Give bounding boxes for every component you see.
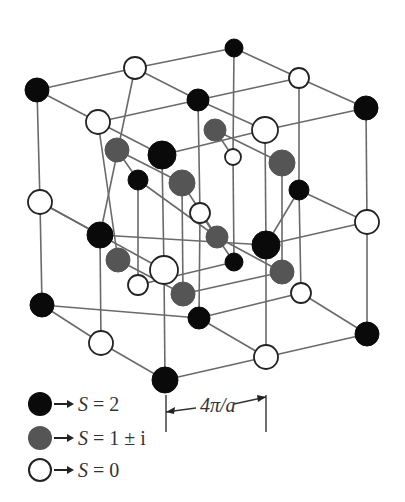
black-lattice-point bbox=[25, 78, 49, 102]
arrow-right-icon bbox=[54, 403, 72, 405]
lattice-edge bbox=[199, 213, 200, 318]
black-lattice-point bbox=[252, 231, 280, 259]
gray-lattice-point bbox=[204, 119, 226, 141]
legend-item-s0: S = 0 bbox=[28, 458, 188, 484]
lattice-edge bbox=[265, 108, 366, 130]
black-lattice-point bbox=[225, 253, 243, 271]
lattice-edge bbox=[100, 235, 101, 343]
legend-label: S = 1 ± i bbox=[78, 426, 146, 450]
lattice-edge bbox=[165, 357, 266, 380]
white-lattice-point bbox=[225, 149, 241, 165]
black-lattice-point bbox=[289, 180, 309, 200]
lattice-edge bbox=[265, 130, 266, 245]
legend-label: S = 0 bbox=[78, 458, 119, 482]
lattice-edge bbox=[164, 270, 165, 380]
gray-lattice-point bbox=[269, 150, 295, 176]
white-lattice-point bbox=[291, 283, 311, 303]
black-lattice-point bbox=[187, 89, 209, 111]
gray-lattice-point bbox=[171, 282, 195, 306]
legend-label: S = 2 bbox=[78, 392, 119, 416]
white-lattice-point bbox=[254, 345, 278, 369]
arrow-right-icon bbox=[54, 437, 72, 439]
lattice-edge bbox=[299, 190, 301, 293]
lattice-edge bbox=[233, 157, 234, 262]
legend-item-s1pmi: S = 1 ± i bbox=[28, 426, 188, 452]
lattice-edge bbox=[366, 108, 367, 222]
white-circle-icon bbox=[28, 458, 52, 482]
black-lattice-point bbox=[188, 307, 210, 329]
black-lattice-point bbox=[355, 322, 379, 346]
dimension-label: 4π/a bbox=[200, 394, 236, 417]
black-lattice-point bbox=[354, 96, 378, 120]
white-lattice-point bbox=[124, 57, 146, 79]
black-lattice-point bbox=[225, 39, 243, 57]
lattice-edge bbox=[37, 90, 40, 202]
arrowhead-icon bbox=[257, 395, 266, 402]
gray-lattice-point bbox=[270, 260, 294, 284]
lattice-edge bbox=[37, 68, 135, 90]
lattice-edge bbox=[199, 293, 301, 318]
white-lattice-point bbox=[150, 256, 178, 284]
white-lattice-point bbox=[89, 331, 113, 355]
black-lattice-point bbox=[87, 222, 113, 248]
white-lattice-point bbox=[86, 110, 110, 134]
lattice-edge bbox=[183, 272, 282, 294]
gray-circle-icon bbox=[28, 426, 52, 450]
lattice-edge bbox=[135, 48, 234, 68]
black-lattice-point bbox=[128, 170, 148, 190]
gray-lattice-point bbox=[169, 170, 195, 196]
lattice-edge bbox=[98, 100, 198, 122]
lattice-edge bbox=[266, 222, 367, 245]
lattice-edge bbox=[42, 305, 199, 318]
lattice-edge bbox=[198, 78, 299, 100]
lattice-edge bbox=[198, 100, 200, 213]
white-lattice-point bbox=[28, 190, 52, 214]
white-lattice-point bbox=[289, 68, 309, 88]
black-lattice-point bbox=[148, 141, 176, 169]
black-circle-icon bbox=[28, 392, 52, 416]
white-lattice-point bbox=[355, 210, 379, 234]
gray-lattice-point bbox=[206, 226, 228, 248]
arrow-right-icon bbox=[54, 469, 72, 471]
white-lattice-point bbox=[128, 275, 148, 295]
black-lattice-point bbox=[152, 367, 178, 393]
gray-lattice-point bbox=[105, 138, 129, 162]
lattice-edge bbox=[182, 183, 183, 294]
black-lattice-point bbox=[30, 293, 54, 317]
lattice-edge bbox=[233, 48, 234, 157]
gray-lattice-point bbox=[106, 248, 130, 272]
white-lattice-point bbox=[190, 203, 210, 223]
lattice-edge bbox=[40, 202, 42, 305]
lattice-edge bbox=[266, 334, 367, 357]
legend-item-s2: S = 2 bbox=[28, 392, 188, 418]
lattice-nodes bbox=[25, 39, 379, 393]
white-lattice-point bbox=[252, 117, 278, 143]
